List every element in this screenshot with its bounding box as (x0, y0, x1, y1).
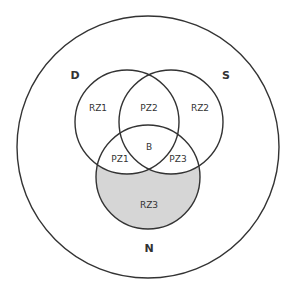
label-s: S (222, 69, 230, 82)
label-pz1: PZ1 (111, 154, 128, 164)
label-d: D (70, 69, 79, 82)
label-rz3: RZ3 (140, 200, 158, 210)
venn-diagram: D S N RZ1 PZ2 RZ2 B PZ1 PZ3 RZ3 (0, 0, 296, 291)
label-n: N (144, 242, 153, 255)
label-b: B (146, 142, 152, 152)
label-pz2: PZ2 (140, 103, 157, 113)
label-pz3: PZ3 (169, 154, 186, 164)
label-rz2: RZ2 (191, 103, 209, 113)
label-rz1: RZ1 (89, 103, 107, 113)
